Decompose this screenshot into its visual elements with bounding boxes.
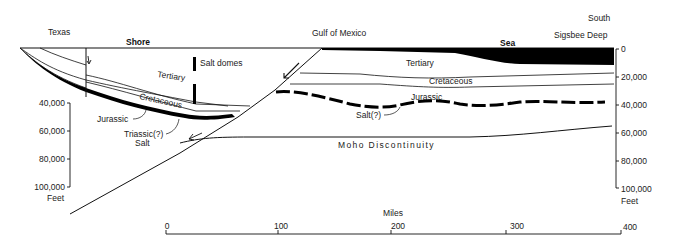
right-depth-axis: 0 20,000 40,000 60,000 80,000 100,000 Fe… bbox=[616, 44, 652, 206]
tertiary-base-left-a bbox=[40, 48, 86, 65]
label-cretaceous-right: Cretaceous bbox=[429, 76, 472, 86]
right-tick-80000: 80,000 bbox=[621, 156, 647, 166]
left-tick-60000: 60,000 bbox=[39, 126, 65, 136]
left-depth-axis: 40,000 60,000 80,000 100,000 Feet bbox=[34, 98, 70, 203]
label-jurassic-left: Jurassic bbox=[97, 114, 129, 124]
label-gulf-of-mexico: Gulf of Mexico bbox=[312, 28, 367, 38]
left-tick-80000: 80,000 bbox=[39, 154, 65, 164]
label-sea: Sea bbox=[500, 38, 515, 48]
right-tick-40000: 40,000 bbox=[621, 100, 647, 110]
right-tick-0: 0 bbox=[621, 44, 626, 54]
salt-dome-upper bbox=[193, 57, 196, 71]
left-axis-unit: Feet bbox=[47, 193, 65, 203]
major-fault bbox=[70, 48, 322, 214]
right-tick-60000: 60,000 bbox=[621, 128, 647, 138]
left-tick-40000: 40,000 bbox=[39, 98, 65, 108]
label-salt-left: Salt bbox=[135, 138, 150, 148]
label-salt-right: Salt(?) bbox=[356, 110, 381, 120]
scale-tick-400: 400 bbox=[623, 222, 637, 232]
label-texas: Texas bbox=[48, 27, 70, 37]
fault-arrow-left bbox=[87, 56, 91, 64]
label-south: South bbox=[588, 13, 610, 23]
label-shore: Shore bbox=[126, 37, 150, 47]
label-salt-domes: Salt domes bbox=[200, 58, 243, 68]
sea-water bbox=[322, 48, 614, 65]
right-axis-unit: Feet bbox=[621, 196, 639, 206]
scale-tick-100: 100 bbox=[274, 221, 288, 231]
right-tick-20000: 20,000 bbox=[621, 72, 647, 82]
distance-scale: Miles 0 100 200 300 400 bbox=[165, 208, 638, 234]
label-tertiary-left: Tertiary bbox=[157, 69, 187, 83]
scale-tick-200: 200 bbox=[391, 221, 405, 231]
gulf-cross-section-diagram: Texas Gulf of Mexico South Sigsbee Deep … bbox=[0, 0, 677, 249]
salt-dome-lower bbox=[193, 84, 196, 104]
label-tertiary-right: Tertiary bbox=[406, 58, 435, 68]
triassic-leader bbox=[166, 119, 179, 134]
scale-tick-300: 300 bbox=[510, 221, 524, 231]
scale-tick-0: 0 bbox=[165, 221, 170, 231]
left-tick-100000: 100,000 bbox=[34, 182, 65, 192]
label-sigsbee-deep: Sigsbee Deep bbox=[554, 30, 608, 40]
scale-title-miles: Miles bbox=[383, 208, 403, 218]
jurassic-leader bbox=[133, 110, 146, 119]
right-tick-100000: 100,000 bbox=[621, 184, 652, 194]
label-moho: Moho Discontinuity bbox=[338, 140, 435, 150]
